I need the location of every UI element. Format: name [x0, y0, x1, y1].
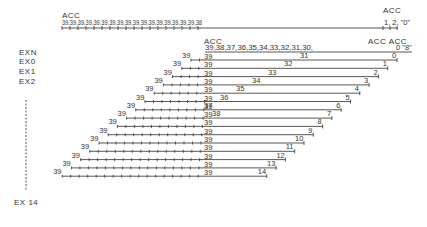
label-ex14: EX 14 [14, 198, 38, 207]
row-left-value: 39 [164, 68, 172, 77]
row-end-value: 1 [383, 59, 387, 68]
row-ex8: 39398 [108, 117, 322, 128]
row-end-value: 3 [364, 76, 368, 85]
label-exn: EXN [19, 48, 37, 57]
row-ex5: 3939365 [136, 93, 351, 104]
top-right-acc-label: ACC [383, 6, 401, 15]
row-left-value: 39 [173, 59, 181, 68]
label-ex1: EX1 [19, 67, 36, 76]
row-left-value: 39 [118, 109, 126, 118]
exn-right-values: 0 "8" [396, 43, 412, 52]
row-center-value: 39 [204, 168, 212, 177]
row-ex6: 3939376 [127, 101, 341, 112]
label-ex0: EX0 [19, 57, 36, 66]
row-end-value: 11 [286, 142, 294, 151]
row-end-value: 5 [346, 93, 350, 102]
row-mid-value: 35 [236, 84, 244, 93]
row-ex2: 3939332 [164, 68, 379, 79]
row-left-value: 39 [136, 93, 144, 102]
top-row-values: 39,39,39,39,39,39,39,39,39,39,39,39,39,3… [62, 18, 202, 27]
exn-row-values: 39,38,37,36,35,34,33,32,31,30, [205, 43, 313, 52]
row-left-value: 39 [53, 167, 61, 176]
row-ex14: 393914 [53, 167, 267, 178]
row-mid-value: 33 [268, 68, 276, 77]
ex-rows: 3939310393932139393323939343393935439393… [53, 51, 397, 178]
row-end-value: 9 [308, 126, 312, 135]
row-mid-value: 34 [252, 76, 260, 85]
row-end-value: 7 [327, 109, 331, 118]
row-end-value: 8 [318, 117, 322, 126]
shift-diagram: ACC 39,39,39,39,39,39,39,39,39,39,39,39,… [0, 0, 427, 227]
row-left-value: 39 [99, 126, 107, 135]
row-ex3: 3939343 [154, 76, 369, 87]
row-ex7: 3939387 [118, 109, 332, 120]
row-end-value: 4 [355, 84, 359, 93]
row-end-value: 13 [267, 159, 275, 168]
label-ex2: EX2 [19, 77, 36, 86]
row-mid-value: 36 [220, 93, 228, 102]
row-mid-value: 32 [284, 59, 292, 68]
row-left-value: 39 [81, 142, 89, 151]
row-end-value: 0 [392, 51, 396, 60]
row-left-value: 39 [154, 76, 162, 85]
row-end-value: 10 [295, 134, 303, 143]
row-ex4: 3939354 [145, 84, 360, 95]
top-right-values: 1, 2, "0" [384, 18, 411, 27]
row-mid-value: 38 [212, 109, 220, 118]
row-end-value: 2 [373, 68, 377, 77]
row-ex10: 393910 [90, 134, 304, 145]
row-left-value: 39 [62, 159, 70, 168]
row-end-value: 12 [276, 151, 284, 160]
row-left-value: 39 [72, 151, 80, 160]
row-mid-value: 31 [300, 51, 308, 60]
row-ex12: 393912 [72, 151, 286, 162]
row-left-value: 39 [182, 51, 190, 60]
row-left-value: 39 [127, 101, 135, 110]
row-end-value: 6 [336, 101, 340, 110]
row-left-value: 39 [145, 84, 153, 93]
row-left-value: 39 [90, 134, 98, 143]
row-left-value: 39 [108, 117, 116, 126]
row-ex11: 393911 [81, 142, 295, 153]
row-ex13: 393913 [62, 159, 276, 170]
row-end-value: 14 [258, 167, 266, 176]
